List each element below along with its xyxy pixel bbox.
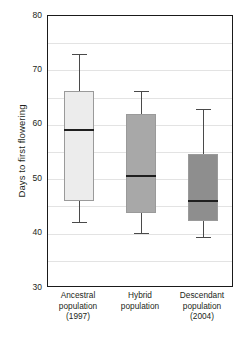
lower-whisker-cap [196,237,211,238]
median-line [64,129,94,131]
x-axis-tick-labels: Ancestralpopulation(1997)Hybridpopulatio… [47,290,233,338]
median-line [188,200,218,202]
upper-whisker-line [203,109,204,154]
median-line [126,175,156,177]
x-tick-label-line: population [171,301,233,312]
upper-whisker-line [141,91,142,114]
box-rect [126,114,156,213]
x-tick-label: Ancestralpopulation(1997) [47,290,109,338]
y-tick-label: 30 [22,283,42,292]
lower-whisker-cap [72,222,87,223]
lower-whisker-line [203,221,204,237]
box-plot-figure: Days to first flowering 304050607080 Anc… [0,0,247,340]
x-tick-label-line: (1997) [47,311,109,322]
x-tick-label-line: population [109,301,171,312]
y-tick-label: 80 [22,11,42,20]
plot-area [47,15,233,287]
x-tick-label: Descendantpopulation(2004) [171,290,233,338]
box-plot-series [126,16,156,286]
lower-whisker-line [79,201,80,222]
y-tick-label: 50 [22,174,42,183]
box-plot-series [188,16,218,286]
x-tick-label-line: Descendant [171,290,233,301]
lower-whisker-line [141,213,142,233]
x-tick-label-line: population [47,301,109,312]
x-tick-label-line: Hybrid [109,290,171,301]
y-axis-tick-labels: 304050607080 [22,0,42,340]
upper-whisker-line [79,54,80,91]
y-tick-label: 60 [22,119,42,128]
box-rect [64,91,94,201]
upper-whisker-cap [196,109,211,110]
y-tick-label: 70 [22,65,42,74]
upper-whisker-cap [72,54,87,55]
x-tick-label: Hybridpopulation [109,290,171,338]
box-plot-series [64,16,94,286]
x-tick-label-line: (2004) [171,311,233,322]
upper-whisker-cap [134,91,149,92]
lower-whisker-cap [134,233,149,234]
x-tick-label-line: Ancestral [47,290,109,301]
box-rect [188,154,218,221]
y-tick-label: 40 [22,228,42,237]
